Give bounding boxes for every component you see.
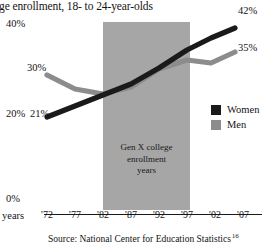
legend: Women Men bbox=[211, 104, 259, 134]
legend-item-women: Women bbox=[211, 104, 259, 115]
y-axis-tick-20: 20% bbox=[6, 108, 25, 119]
x-axis-tick-87: '87 bbox=[119, 209, 143, 220]
y-axis-tick-40: 40% bbox=[6, 18, 25, 29]
x-axis-tick-77: '77 bbox=[63, 209, 87, 220]
legend-item-men: Men bbox=[211, 119, 259, 130]
legend-swatch-women-icon bbox=[211, 105, 221, 115]
college-enrollment-line-chart: ege enrollment, 18- to 24-year-olds Gen … bbox=[0, 0, 275, 248]
women-start-value-label: 21% bbox=[30, 108, 49, 119]
legend-label-men: Men bbox=[227, 119, 246, 130]
y-axis-tick-0: 0% bbox=[6, 193, 20, 204]
x-axis-tick-02: '02 bbox=[203, 209, 227, 220]
x-axis-tick-07: '07 bbox=[231, 209, 255, 220]
legend-label-women: Women bbox=[227, 104, 259, 115]
men-start-value-label: 30% bbox=[27, 62, 46, 73]
x-axis-title: years bbox=[2, 210, 24, 221]
women-line-path bbox=[47, 28, 235, 117]
source-note: Source: National Center for Education St… bbox=[48, 232, 239, 244]
x-axis-tick-82: '82 bbox=[91, 209, 115, 220]
x-axis-tick-97: '97 bbox=[175, 209, 199, 220]
legend-swatch-men-icon bbox=[211, 120, 221, 130]
source-text: Source: National Center for Education St… bbox=[48, 234, 231, 244]
men-line-path bbox=[47, 52, 235, 94]
x-axis-tick-72: '72 bbox=[35, 209, 59, 220]
source-footnote-marker: 16 bbox=[232, 232, 239, 240]
chart-title: ege enrollment, 18- to 24-year-olds bbox=[0, 0, 254, 12]
men-end-value-label: 35% bbox=[238, 42, 257, 53]
x-axis-tick-92: '92 bbox=[147, 209, 171, 220]
women-end-value-label: 42% bbox=[238, 5, 257, 16]
